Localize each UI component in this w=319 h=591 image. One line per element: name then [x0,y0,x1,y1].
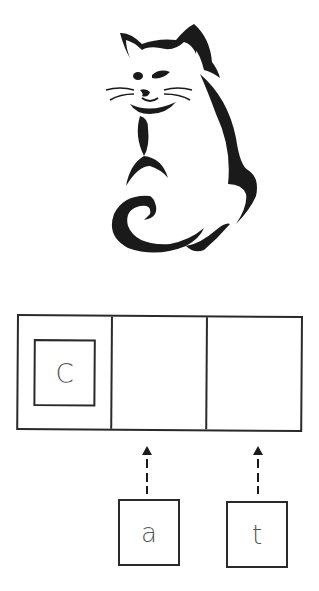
word-slot-2[interactable] [112,317,208,430]
letter-tile-label: C [55,358,73,388]
cat-icon [100,18,270,258]
word-slot-3[interactable] [207,317,301,430]
letter-tile-t[interactable]: t [226,501,288,568]
letter-tile-a[interactable]: a [118,499,180,566]
letter-tile-c[interactable]: C [33,339,95,406]
dashed-arrow-up-icon [252,446,264,494]
letter-tile-label: t [252,520,262,550]
word-slots: C [16,314,303,432]
word-slot-1[interactable]: C [18,316,113,429]
dashed-arrow-up-icon [141,446,153,494]
letter-tile-label: a [141,518,157,548]
